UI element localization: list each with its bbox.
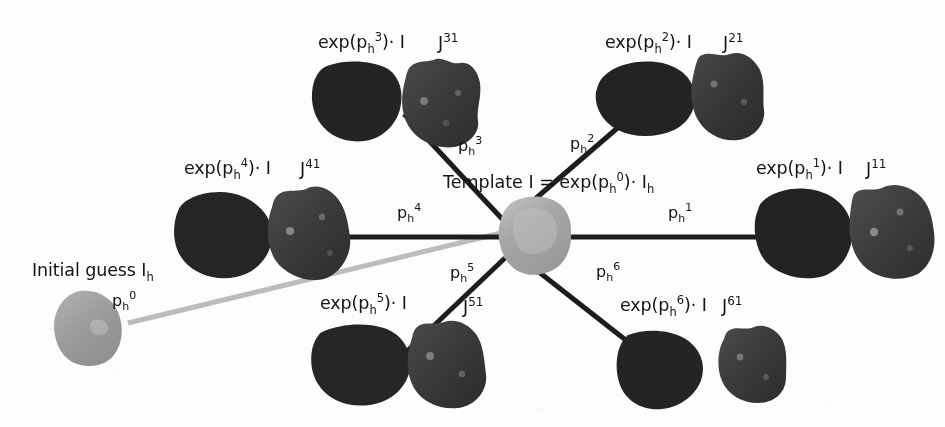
initial-guess-text: Initial guess I [32, 260, 146, 280]
branch-2-exp-suffix: )· I [669, 32, 692, 52]
branch-4-edge-base: p [397, 203, 407, 222]
branch-2-j-label: J21 [723, 32, 743, 53]
template-shape [487, 193, 577, 279]
branch-4-edge-label: ph4 [397, 202, 421, 224]
branch-1-textured-shape [844, 182, 944, 282]
branch-3-exp-sub: h [367, 42, 374, 56]
branch-2-edge-sub: h [580, 143, 587, 156]
branch-5-shapes [308, 318, 488, 410]
branch-5-exp-suffix: )· I [384, 293, 407, 313]
figure-canvas: exp(ph3)· I J31 exp(ph2)· I J21 exp(ph4)… [0, 0, 945, 427]
branch-1-exp-suffix: )· I [820, 158, 843, 178]
branch-5-dark-shape [308, 322, 416, 408]
branch-5-textured-shape [402, 318, 494, 410]
branch-2-exp-label: exp(ph2)· I [605, 32, 692, 55]
branch-5-edge-sup: 5 [467, 261, 474, 274]
branch-2-exp-prefix: exp(p [605, 32, 654, 52]
branch-5-edge-label: ph5 [450, 262, 474, 284]
branch-3-edge-label: ph3 [458, 135, 482, 157]
branch-3-edge-sup: 3 [475, 134, 482, 147]
initial-guess-edge-label: ph0 [112, 290, 136, 312]
branch-3-dark-shape [308, 59, 408, 143]
branch-3-exp-sup: 3 [375, 30, 382, 44]
branch-2-shapes [590, 50, 770, 142]
branch-2-j-sup: 21 [728, 31, 743, 45]
branch-1-j-sup: 11 [871, 157, 886, 171]
branch-6-exp-sup: 6 [677, 293, 684, 307]
template-label-sup: 0 [617, 170, 624, 184]
branch-1-j-label: J11 [866, 158, 886, 179]
branch-4-exp-prefix: exp(p [184, 158, 233, 178]
branch-4-exp-sub: h [233, 168, 240, 182]
branch-4-exp-suffix: )· I [248, 158, 271, 178]
branch-3-exp-suffix: )· I [382, 32, 405, 52]
branch-1-exp-sub: h [805, 168, 812, 182]
branch-5-edge-sub: h [460, 272, 467, 285]
branch-3-edge-sub: h [468, 145, 475, 158]
branch-4-edge-sup: 4 [414, 201, 421, 214]
branch-2-textured-shape [686, 50, 774, 142]
initial-guess-sub: h [146, 270, 153, 284]
branch-4-textured-shape [264, 183, 360, 283]
branch-5-j-label: J51 [463, 296, 483, 317]
branch-3-j-sup: 31 [443, 31, 458, 45]
branch-1-edge-sup: 1 [685, 201, 692, 214]
branch-4-edge-sub: h [407, 212, 414, 225]
initial-guess-label: Initial guess Ih [32, 262, 154, 283]
branch-6-dark-shape [612, 329, 708, 411]
branch-3-shapes [308, 57, 483, 147]
branch-5-edge-base: p [450, 263, 460, 282]
branch-2-exp-sup: 2 [662, 30, 669, 44]
branch-1-exp-label: exp(ph1)· I [756, 158, 843, 181]
branch-3-j-label: J31 [438, 32, 458, 53]
branch-4-exp-label: exp(ph4)· I [184, 158, 271, 181]
branch-6-edge-base: p [596, 262, 606, 281]
branch-5-exp-sup: 5 [377, 291, 384, 305]
branch-1-exp-sup: 1 [813, 156, 820, 170]
branch-6-exp-suffix: )· I [684, 295, 707, 315]
branch-5-exp-label: exp(ph5)· I [320, 293, 407, 316]
branch-2-edge-label: ph2 [570, 133, 594, 155]
template-label-prefix: Template I = exp(p [443, 172, 609, 192]
branch-1-shapes [752, 182, 942, 282]
branch-6-exp-sub: h [669, 305, 676, 319]
template-label-mid: )· I [624, 172, 647, 192]
branch-6-edge-label: ph6 [596, 261, 620, 283]
branch-6-textured-shape [716, 323, 792, 405]
template-label-sub: h [609, 182, 616, 196]
branch-4-exp-sup: 4 [241, 156, 248, 170]
branch-2-dark-shape [590, 58, 698, 140]
template-label: Template I = exp(ph0)· Ih [443, 172, 654, 195]
branch-3-edge-base: p [458, 136, 468, 155]
branch-2-edge-base: p [570, 134, 580, 153]
branch-4-dark-shape [170, 189, 278, 281]
branch-2-edge-sup: 2 [587, 132, 594, 145]
branch-1-edge-label: ph1 [668, 202, 692, 224]
branch-4-shapes [170, 183, 355, 283]
initial-guess-edge-sup: 0 [129, 289, 136, 302]
branch-6-exp-label: exp(ph6)· I [620, 295, 707, 318]
branch-3-exp-label: exp(ph3)· I [318, 32, 405, 55]
branch-4-j-sup: 41 [305, 157, 320, 171]
branch-6-j-label: J61 [722, 295, 742, 316]
branch-6-shapes [612, 323, 787, 411]
branch-6-edge-sub: h [606, 271, 613, 284]
branch-3-exp-prefix: exp(p [318, 32, 367, 52]
branch-1-exp-prefix: exp(p [756, 158, 805, 178]
branch-1-edge-sub: h [678, 212, 685, 225]
branch-5-j-sup: 51 [468, 295, 483, 309]
initial-guess-edge-base: p [112, 291, 122, 310]
branch-6-j-sup: 61 [727, 294, 742, 308]
branch-2-exp-sub: h [654, 42, 661, 56]
branch-5-exp-sub: h [369, 303, 376, 317]
branch-6-exp-prefix: exp(p [620, 295, 669, 315]
branch-4-j-label: J41 [300, 158, 320, 179]
branch-5-exp-prefix: exp(p [320, 293, 369, 313]
branch-1-edge-base: p [668, 203, 678, 222]
branch-6-edge-sup: 6 [613, 260, 620, 273]
branch-1-dark-shape [752, 186, 856, 280]
initial-guess-edge-sub: h [122, 300, 129, 313]
template-label-tail-sub: h [647, 182, 654, 196]
